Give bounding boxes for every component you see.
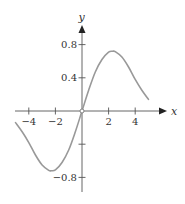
y-axis-arrow-icon [79, 25, 86, 33]
y-tick-label: 0.4 [61, 72, 77, 83]
x-axis-label: x [171, 105, 178, 118]
function-plot: x y −4−224−0.80.40.8 [0, 0, 185, 204]
x-tick-label: −4 [21, 116, 36, 127]
y-tick-label: 0.8 [61, 39, 77, 50]
x-tick-label: −2 [48, 116, 63, 127]
y-axis-label: y [78, 11, 86, 24]
x-tick-label: 4 [132, 116, 138, 127]
origin-open-circle [80, 109, 84, 113]
x-tick-label: 2 [105, 116, 111, 127]
x-axis-arrow-icon [159, 108, 167, 115]
y-tick-label: −0.8 [53, 172, 77, 183]
